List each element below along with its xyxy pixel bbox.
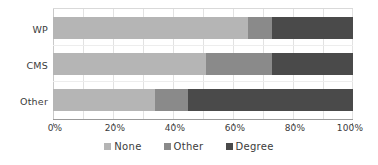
legend: None Other Degree bbox=[0, 141, 378, 152]
bar-segment-wp-none bbox=[53, 17, 248, 39]
bar-segment-cms-none bbox=[53, 53, 206, 75]
bar-segment-wp-degree bbox=[272, 17, 353, 39]
gridline-y-1 bbox=[53, 45, 353, 46]
stacked-bar-chart: WP CMS Other bbox=[0, 0, 378, 165]
x-axis-label-60: 60% bbox=[225, 123, 246, 133]
x-axis-label-20: 20% bbox=[105, 123, 126, 133]
plot-area bbox=[53, 8, 353, 120]
y-axis-label-wp: WP bbox=[0, 24, 48, 35]
x-axis-label-100: 100% bbox=[337, 123, 364, 133]
legend-item-degree[interactable]: Degree bbox=[226, 141, 274, 152]
legend-label-none: None bbox=[114, 141, 141, 152]
bar-segment-other-none bbox=[53, 89, 155, 111]
square-swatch-icon bbox=[164, 143, 171, 150]
bar-cms bbox=[53, 53, 353, 75]
legend-label-degree: Degree bbox=[236, 141, 274, 152]
gridline-y-2 bbox=[53, 81, 353, 82]
y-axis-label-cms: CMS bbox=[0, 60, 48, 71]
square-swatch-icon bbox=[226, 143, 233, 150]
bar-segment-cms-other bbox=[206, 53, 272, 75]
y-axis-label-other: Other bbox=[0, 96, 48, 107]
x-axis: 0% 20% 40% 60% 80% 100% bbox=[53, 123, 353, 137]
x-axis-label-0: 0% bbox=[48, 123, 63, 133]
bar-segment-other-other bbox=[155, 89, 188, 111]
bar-other bbox=[53, 89, 353, 111]
x-axis-label-40: 40% bbox=[165, 123, 186, 133]
bar-wp bbox=[53, 17, 353, 39]
legend-item-none[interactable]: None bbox=[104, 141, 141, 152]
square-swatch-icon bbox=[104, 143, 111, 150]
bar-segment-cms-degree bbox=[272, 53, 353, 75]
bar-segment-other-degree bbox=[188, 89, 353, 111]
legend-item-other[interactable]: Other bbox=[164, 141, 204, 152]
legend-label-other: Other bbox=[174, 141, 204, 152]
x-axis-label-80: 80% bbox=[285, 123, 306, 133]
bar-segment-wp-other bbox=[248, 17, 272, 39]
